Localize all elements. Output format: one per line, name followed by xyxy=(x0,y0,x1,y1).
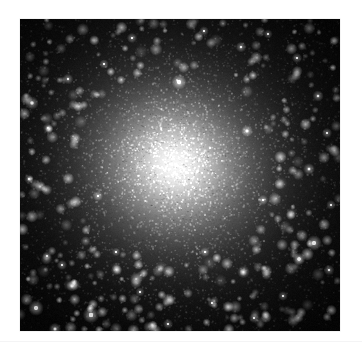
page-seam-divider xyxy=(0,341,362,342)
globular-cluster-image-panel xyxy=(20,19,340,331)
globular-cluster-canvas xyxy=(20,19,340,331)
page-root xyxy=(0,0,362,353)
